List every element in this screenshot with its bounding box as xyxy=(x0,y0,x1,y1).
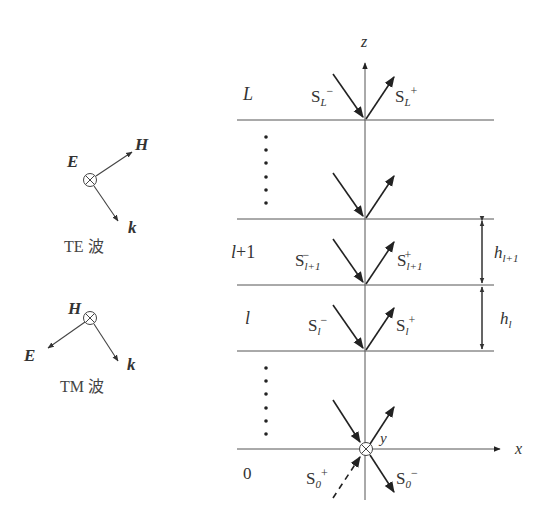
layer-label-l: l xyxy=(245,308,250,329)
diagram-canvas xyxy=(0,0,549,527)
tm-k-label: k xyxy=(127,355,136,375)
y-axis-into-page-icon xyxy=(360,443,373,456)
tm-e-label: E xyxy=(24,346,35,366)
wave-label-S0-plus: S0+ xyxy=(306,466,328,490)
thickness-label-h-l: hl xyxy=(500,309,512,330)
layer-label-L: L xyxy=(243,84,253,105)
wave-label-SL-minus: SL− xyxy=(311,84,333,108)
te-k-label: k xyxy=(128,218,137,238)
ellipsis-dots-lower xyxy=(264,366,268,436)
te-e-label: E xyxy=(67,152,78,172)
tm-k-vector xyxy=(94,324,118,361)
wave-label-SL-plus: SL+ xyxy=(395,84,417,108)
wave-arrows-layer-l xyxy=(333,305,394,350)
wave-label-S0-minus: S0− xyxy=(396,466,418,490)
wave-label-Sl1-minus: Sl+1− xyxy=(295,248,309,272)
thickness-label-h-l-plus-1: hl+1 xyxy=(494,243,518,264)
tm-wave-diagram xyxy=(48,312,118,362)
te-h-label: H xyxy=(135,135,148,155)
z-axis-label: z xyxy=(361,33,367,51)
x-axis-label: x xyxy=(515,440,522,458)
te-wave-diagram xyxy=(84,152,133,221)
y-axis-label: y xyxy=(380,430,387,447)
tm-h-label: H xyxy=(68,299,81,319)
tm-wave-caption: TM 波 xyxy=(60,373,104,397)
wave-label-Sl-minus: Sl− xyxy=(308,313,327,337)
layer-label-0: 0 xyxy=(243,464,252,484)
wave-arrows-intermediate xyxy=(333,173,394,218)
ellipsis-dots-upper xyxy=(264,135,268,205)
te-wave-caption: TE 波 xyxy=(64,233,104,257)
layer-label-l-plus-1: l+1 xyxy=(231,242,255,263)
tm-e-vector xyxy=(48,322,85,348)
wave-label-Sl1-plus: Sl+1+ xyxy=(397,248,411,272)
wave-label-Sl-plus: Sl+ xyxy=(396,313,415,337)
wave-arrows-layer-l-plus-1 xyxy=(333,239,394,284)
wave-arrows-layer-L xyxy=(333,74,394,119)
te-h-vector xyxy=(96,152,132,176)
te-k-vector xyxy=(94,186,118,221)
